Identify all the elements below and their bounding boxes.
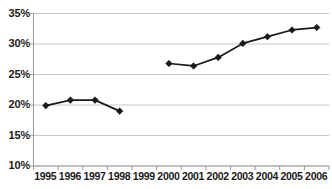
x-tick-label: 1998	[108, 170, 130, 182]
x-tick-label: 1996	[59, 170, 81, 182]
data-point-marker	[190, 63, 197, 70]
x-tick-label: 2000	[157, 170, 179, 182]
gridlines	[34, 14, 330, 167]
plot-area	[0, 0, 332, 189]
x-tick-label: 2005	[280, 170, 302, 182]
x-tick-label: 1999	[133, 170, 155, 182]
x-axis-tick-marks	[30, 14, 330, 171]
x-tick-label: 2001	[182, 170, 204, 182]
x-tick-label: 2002	[207, 170, 229, 182]
data-point-marker	[313, 24, 320, 31]
data-point-marker	[43, 102, 50, 109]
data-point-marker	[289, 27, 296, 34]
data-point-marker	[166, 60, 173, 67]
x-tick-label: 1997	[83, 170, 105, 182]
x-tick-label: 2004	[256, 170, 278, 182]
x-tick-label: 2003	[231, 170, 253, 182]
data-point-marker	[67, 97, 74, 104]
x-axis: 1995199619971998199920002001200220032004…	[33, 170, 329, 186]
data-point-marker	[264, 33, 271, 40]
data-point-marker	[116, 108, 123, 115]
data-point-marker	[215, 54, 222, 61]
data-point-marker	[92, 97, 99, 104]
data-point-marker	[240, 40, 247, 47]
series-segment	[46, 100, 120, 111]
x-tick-label: 2006	[305, 170, 327, 182]
series-line	[46, 28, 317, 112]
x-tick-label: 1995	[34, 170, 56, 182]
line-chart: 10%15%20%25%30%35% 199519961997199819992…	[0, 0, 332, 189]
